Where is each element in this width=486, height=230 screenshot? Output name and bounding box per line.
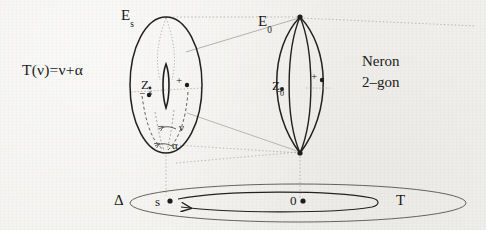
point-plus-left[interactable] bbox=[185, 83, 189, 87]
label-alpha: α bbox=[172, 140, 178, 151]
fiber-e0-group[interactable] bbox=[277, 14, 330, 155]
vanishing-cycle bbox=[163, 64, 169, 108]
label-fiber-es-sub: s bbox=[130, 19, 134, 29]
guide-lower-b bbox=[176, 145, 300, 153]
label-plus-right: + bbox=[311, 71, 317, 82]
label-plus-left: + bbox=[176, 75, 182, 86]
base-point-s[interactable] bbox=[167, 198, 172, 203]
label-fiber-e0-main: E bbox=[258, 13, 267, 29]
label-nu: ν bbox=[179, 122, 184, 133]
twogon-arc-4 bbox=[300, 17, 323, 153]
base-disc-group[interactable] bbox=[130, 184, 466, 222]
label-base-T: T bbox=[396, 193, 405, 208]
monodromy-formula: T(ν)=ν+α bbox=[22, 62, 83, 78]
label-delta: Δ bbox=[114, 193, 124, 208]
nu-arrow bbox=[159, 127, 176, 129]
twogon-arc-3 bbox=[300, 17, 311, 153]
label-fiber-es-main: E bbox=[121, 7, 130, 23]
guide-slant-base bbox=[176, 152, 299, 163]
base-point-0[interactable] bbox=[300, 198, 305, 203]
label-base-s: s bbox=[155, 195, 160, 208]
label-fiber-e0: E0 bbox=[258, 14, 272, 29]
point-plus-right[interactable] bbox=[320, 78, 324, 82]
label-center-zs-sub: s bbox=[149, 88, 152, 97]
twogon-arc-2 bbox=[289, 17, 300, 153]
label-fiber-e0-sub: 0 bbox=[267, 25, 272, 35]
base-disc-outline[interactable] bbox=[130, 184, 466, 222]
label-base-0: 0 bbox=[290, 194, 297, 207]
dashed-loop-right bbox=[168, 92, 188, 150]
twogon-node-bottom[interactable] bbox=[297, 150, 302, 155]
guide-right-top bbox=[300, 18, 476, 26]
caption-twogon: 2–gon bbox=[362, 75, 400, 90]
monodromy-loop[interactable] bbox=[178, 192, 378, 212]
twogon-node-top[interactable] bbox=[297, 14, 302, 19]
label-minus-right: − bbox=[276, 86, 282, 97]
figure-canvas: T(ν)=ν+α Es E0 Zs Z0 − + − + ν α Neron 2… bbox=[0, 0, 486, 230]
diagram-svg bbox=[0, 0, 486, 230]
label-minus-left: − bbox=[139, 88, 145, 99]
caption-neron: Neron bbox=[362, 54, 400, 69]
label-fiber-es: Es bbox=[121, 8, 134, 23]
